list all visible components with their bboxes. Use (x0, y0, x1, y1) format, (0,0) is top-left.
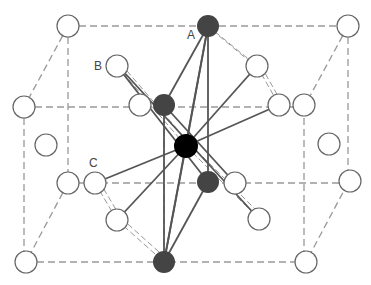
atom (295, 251, 317, 273)
atom (129, 94, 151, 116)
atom-a (197, 15, 219, 37)
atom (106, 209, 128, 231)
atom (57, 15, 79, 37)
atom (337, 15, 359, 37)
dark-atom (197, 171, 219, 193)
atom (15, 251, 37, 273)
atom (246, 55, 268, 77)
label-c: C (89, 157, 98, 169)
dark-atom (153, 251, 175, 273)
atom (224, 172, 246, 194)
atom-c (84, 172, 106, 194)
atom (35, 134, 57, 156)
center-atom (174, 134, 198, 158)
atom (293, 94, 315, 116)
atom (13, 96, 35, 118)
atom (268, 94, 290, 116)
atom (318, 133, 340, 155)
atom-b (106, 55, 128, 77)
atom (339, 170, 361, 192)
crystal-structure-diagram (0, 0, 371, 285)
atom (57, 172, 79, 194)
label-b: B (94, 60, 102, 72)
label-a: A (187, 29, 195, 41)
dark-atom (153, 94, 175, 116)
atom (248, 208, 270, 230)
